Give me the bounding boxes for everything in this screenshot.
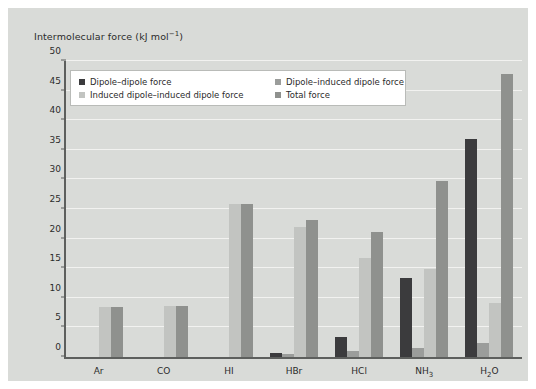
bar-H2O-series-3 <box>501 74 513 357</box>
bar-HBr-series-1 <box>282 354 294 357</box>
legend-item-2[interactable]: Induced dipole–induced dipole force <box>79 90 275 100</box>
x-axis-tick-label-Ar: Ar <box>94 366 104 376</box>
y-axis-tick-label: 35 <box>50 135 61 145</box>
chart-legend: Dipole–dipole forceDipole–induced dipole… <box>70 70 406 106</box>
bar-HBr-series-0 <box>270 353 282 357</box>
bar-H2O-series-1 <box>477 343 489 357</box>
legend-item-3[interactable]: Total force <box>275 90 404 100</box>
y-axis-tick-label: 10 <box>50 283 61 293</box>
legend-swatch-icon <box>79 79 85 85</box>
bar-CO-series-3 <box>176 306 188 357</box>
bar-HCl-series-3 <box>371 232 383 358</box>
legend-swatch-icon <box>275 79 281 85</box>
legend-item-1[interactable]: Dipole–induced dipole force <box>275 77 404 87</box>
legend-swatch-icon <box>79 92 85 98</box>
legend-label: Total force <box>286 90 330 100</box>
bar-H2O-series-0 <box>465 139 477 357</box>
legend-label: Induced dipole–induced dipole force <box>90 90 243 100</box>
legend-swatch-icon <box>275 92 281 98</box>
x-tick-base: HI <box>224 366 233 376</box>
y-axis-tick-label: 5 <box>55 312 61 322</box>
y-axis-title: Intermolecular force (kJ mol−1) <box>34 31 183 42</box>
y-axis-tick-label: 30 <box>50 164 61 174</box>
x-tick-base: HCl <box>351 366 367 376</box>
y-axis-tick-label: 20 <box>50 224 61 234</box>
y-axis-title-tail: ) <box>179 31 183 42</box>
x-axis-tick-label-HI: HI <box>224 366 233 376</box>
x-tick-base: CO <box>157 366 170 376</box>
bar-HBr-series-2 <box>294 227 306 357</box>
y-axis-tick-label: 40 <box>50 105 61 115</box>
x-axis-tick-label-HBr: HBr <box>286 366 303 376</box>
plot-panel: Intermolecular force (kJ mol−1) 05101520… <box>8 8 528 381</box>
bar-Ar-series-2 <box>99 307 111 357</box>
bar-NH3-series-3 <box>436 181 448 357</box>
figure-container: Intermolecular force (kJ mol−1) 05101520… <box>0 0 536 389</box>
x-tick-subscript: 3 <box>429 371 433 379</box>
x-tick-base: HBr <box>286 366 303 376</box>
y-axis-tick-label: 25 <box>50 194 61 204</box>
x-tick-base: NH <box>415 366 429 376</box>
bar-group-H2O: H2O <box>457 61 522 357</box>
y-axis-tick-label: 50 <box>50 46 61 56</box>
y-axis-tick-label: 45 <box>50 76 61 86</box>
x-tick-base: Ar <box>94 366 104 376</box>
bar-HCl-series-2 <box>359 258 371 357</box>
bar-HI-series-2 <box>229 204 241 357</box>
legend-label: Dipole–dipole force <box>90 77 171 87</box>
bar-NH3-series-1 <box>412 348 424 357</box>
x-tick-base: H <box>480 366 487 376</box>
legend-label: Dipole–induced dipole force <box>286 77 404 87</box>
bar-NH3-series-2 <box>424 269 436 357</box>
y-axis-title-text: Intermolecular force (kJ mol <box>34 31 169 42</box>
x-axis-tick-label-H2O: H2O <box>480 366 498 376</box>
bar-HCl-series-0 <box>335 337 347 357</box>
bar-NH3-series-0 <box>400 278 412 357</box>
bar-CO-series-2 <box>164 306 176 357</box>
x-axis-tick-label-HCl: HCl <box>351 366 367 376</box>
bar-H2O-series-2 <box>489 303 501 357</box>
y-axis-tick-label: 0 <box>55 342 61 352</box>
y-axis-title-exponent: −1 <box>169 30 180 38</box>
x-axis-tick-label-CO: CO <box>157 366 170 376</box>
bar-HCl-series-1 <box>347 351 359 357</box>
bar-HBr-series-3 <box>306 220 318 357</box>
bar-HI-series-3 <box>241 204 253 357</box>
legend-item-0[interactable]: Dipole–dipole force <box>79 77 275 87</box>
y-axis-tick-label: 15 <box>50 253 61 263</box>
bar-Ar-series-3 <box>111 307 123 357</box>
x-axis-tick-label-NH3: NH3 <box>415 366 433 376</box>
x-tick-tail: O <box>491 366 498 376</box>
